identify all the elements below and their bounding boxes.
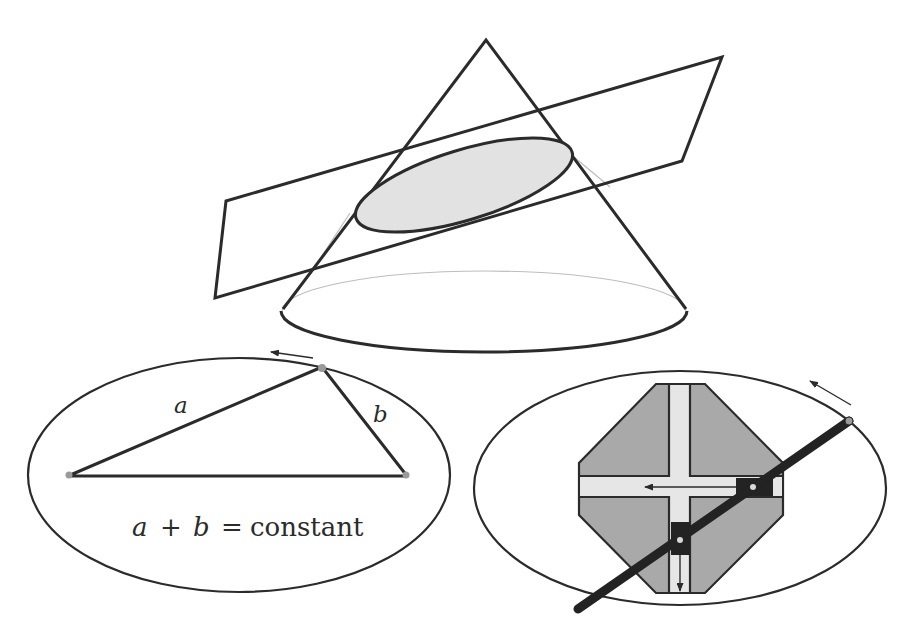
- equation-label: a + b = constant: [132, 512, 364, 542]
- direction-arrow-left: [271, 352, 313, 358]
- focus-right-pin: [403, 472, 410, 479]
- focus-left-pin: [66, 472, 73, 479]
- vertical-slider-pivot: [677, 537, 683, 543]
- eq-plus: +: [160, 512, 182, 542]
- eq-constant: constant: [250, 512, 364, 542]
- section-ellipse: [346, 118, 583, 251]
- cone-base-front-edge: [281, 311, 687, 352]
- pencil-point: [318, 364, 326, 372]
- string-construction-panel: a b a + b = constant: [28, 352, 450, 592]
- cone-base-back-edge: [282, 271, 686, 311]
- string-triangle: [68, 367, 407, 476]
- rod-tip-pencil: [845, 417, 853, 425]
- horizontal-slider-pivot: [750, 484, 756, 490]
- trammel-panel: [474, 371, 886, 609]
- label-a: a: [174, 392, 188, 418]
- label-b: b: [373, 401, 388, 427]
- conic-sections-figure: a b a + b = constant: [0, 0, 915, 639]
- eq-equals: =: [221, 512, 243, 542]
- eq-a: a: [132, 512, 148, 542]
- cone-section-panel: [215, 40, 722, 352]
- eq-b: b: [193, 512, 210, 542]
